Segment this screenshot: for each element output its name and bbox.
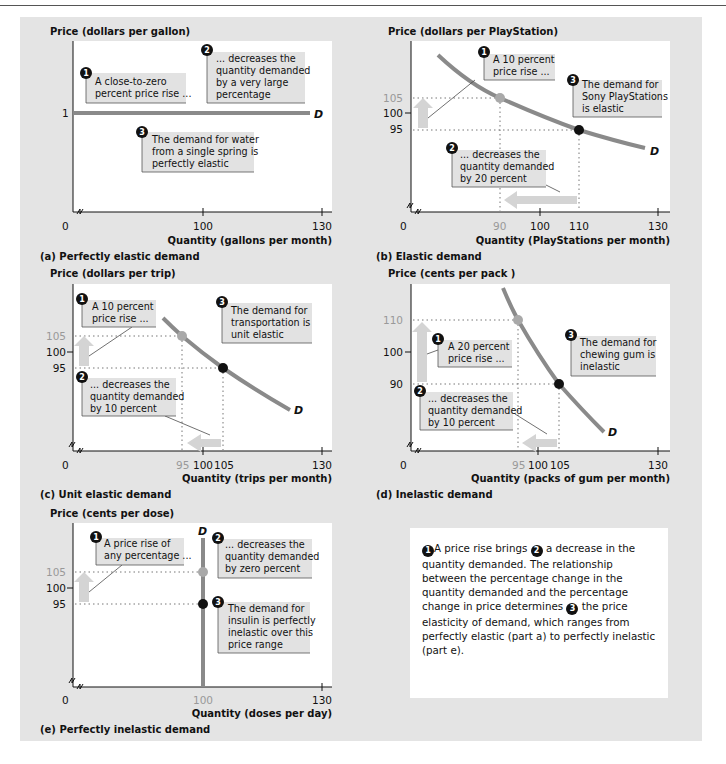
panel-caption: (d) Inelastic demand xyxy=(376,489,493,500)
svg-text:130: 130 xyxy=(312,694,332,706)
svg-text:percent price rise ...: percent price rise ... xyxy=(95,88,191,99)
svg-text:inelastic: inelastic xyxy=(580,361,620,372)
svg-text:quantity demanded: quantity demanded xyxy=(90,391,184,402)
svg-text:quantity demanded: quantity demanded xyxy=(216,65,310,76)
svg-text:100: 100 xyxy=(383,346,403,358)
svg-text:... decreases the: ... decreases the xyxy=(225,539,305,550)
x-axis-label: Quantity (PlayStations per month) xyxy=(476,235,670,246)
svg-text:The demand for: The demand for xyxy=(579,337,657,348)
svg-text:D: D xyxy=(608,426,617,439)
final-point xyxy=(218,363,228,373)
svg-text:90: 90 xyxy=(390,378,403,390)
final-point xyxy=(574,125,584,135)
svg-text:A 10 percent: A 10 percent xyxy=(493,54,555,65)
panel-caption: (c) Unit elastic demand xyxy=(40,489,171,500)
x-axis-label: Quantity (trips per month) xyxy=(182,473,332,484)
step-1-icon: 1 xyxy=(422,545,434,557)
svg-text:price rise ...: price rise ... xyxy=(493,66,550,77)
svg-text:2: 2 xyxy=(215,534,221,543)
svg-text:105: 105 xyxy=(550,459,570,471)
svg-text:D: D xyxy=(198,525,207,538)
svg-text:105: 105 xyxy=(46,330,66,342)
final-point xyxy=(198,599,208,609)
x-axis-label: Quantity (gallons per month) xyxy=(168,235,332,246)
x-tick: 0 xyxy=(62,220,69,232)
svg-text:unit elastic: unit elastic xyxy=(231,329,284,340)
svg-text:1: 1 xyxy=(83,69,89,78)
panel-caption: (e) Perfectly inelastic demand xyxy=(40,724,210,735)
svg-text:... decreases the: ... decreases the xyxy=(460,149,540,160)
svg-text:3: 3 xyxy=(219,298,225,307)
y-axis-label: Price (cents per pack ) xyxy=(388,268,515,279)
step-3-icon: 3 xyxy=(566,603,578,615)
svg-text:from a single spring is: from a single spring is xyxy=(152,146,258,157)
x-tick: 130 xyxy=(312,220,332,232)
panel-d: Price (cents per pack ) 0 95 100 105 130… xyxy=(376,268,670,500)
svg-text:inelastic over this: inelastic over this xyxy=(228,627,313,638)
y-axis-label: Price (dollars per trip) xyxy=(50,268,176,279)
svg-text:95: 95 xyxy=(176,459,189,471)
svg-text:100: 100 xyxy=(193,459,213,471)
svg-text:by a very large: by a very large xyxy=(216,77,288,88)
svg-text:The demand for water: The demand for water xyxy=(151,134,259,145)
x-axis-label: Quantity (packs of gum per month) xyxy=(471,473,670,484)
initial-point xyxy=(177,331,187,341)
svg-text:0: 0 xyxy=(400,220,407,232)
initial-point xyxy=(495,93,505,103)
svg-text:is elastic: is elastic xyxy=(582,103,624,114)
svg-text:The demand for: The demand for xyxy=(230,305,308,316)
step-2-icon: 2 xyxy=(531,545,543,557)
x-tick: 100 xyxy=(193,220,213,232)
svg-text:105: 105 xyxy=(383,92,403,104)
svg-text:0: 0 xyxy=(62,459,69,471)
svg-text:quantity demanded: quantity demanded xyxy=(428,405,522,416)
panel-caption: (a) Perfectly elastic demand xyxy=(40,251,200,262)
svg-text:130: 130 xyxy=(312,459,332,471)
svg-text:insulin is perfectly: insulin is perfectly xyxy=(228,615,316,626)
svg-text:2: 2 xyxy=(79,373,85,382)
svg-text:3: 3 xyxy=(568,331,574,340)
svg-text:price range: price range xyxy=(228,639,283,650)
svg-text:Sony PlayStations: Sony PlayStations xyxy=(582,91,668,102)
svg-text:3: 3 xyxy=(139,128,145,137)
svg-text:100: 100 xyxy=(193,694,213,706)
svg-text:price rise ...: price rise ... xyxy=(92,313,149,324)
svg-text:3: 3 xyxy=(570,76,576,85)
svg-text:transportation is: transportation is xyxy=(231,317,310,328)
panel-b: Price (dollars per PlayStation) 0 90 100… xyxy=(376,26,670,262)
y-tick: 1 xyxy=(62,107,69,119)
svg-text:105: 105 xyxy=(214,459,234,471)
svg-text:chewing gum is: chewing gum is xyxy=(580,349,655,360)
svg-text:1: 1 xyxy=(435,335,441,344)
panel-e: Price (cents per dose) 0 100 130 Quantit… xyxy=(40,508,332,735)
svg-text:1: 1 xyxy=(481,48,487,57)
svg-text:100: 100 xyxy=(383,107,403,119)
svg-text:95: 95 xyxy=(53,598,66,610)
svg-text:... decreases the: ... decreases the xyxy=(216,53,296,64)
svg-text:... decreases the: ... decreases the xyxy=(90,379,170,390)
initial-point xyxy=(198,567,208,577)
svg-text:100: 100 xyxy=(528,459,548,471)
svg-text:price rise ...: price rise ... xyxy=(448,353,505,364)
svg-text:100: 100 xyxy=(46,346,66,358)
svg-text:D: D xyxy=(294,404,303,417)
svg-text:A 20 percent: A 20 percent xyxy=(448,341,510,352)
svg-text:A price rise of: A price rise of xyxy=(104,538,171,549)
svg-text:quantity demanded: quantity demanded xyxy=(460,161,554,172)
svg-text:95: 95 xyxy=(53,362,66,374)
svg-text:100: 100 xyxy=(530,220,550,232)
summary-box: 1A price rise brings 2 a decrease in the… xyxy=(410,528,668,698)
svg-text:1: 1 xyxy=(93,533,99,542)
svg-text:110: 110 xyxy=(383,314,403,326)
svg-text:110: 110 xyxy=(569,220,589,232)
svg-text:1: 1 xyxy=(79,295,85,304)
svg-text:3: 3 xyxy=(215,598,221,607)
x-axis-label: Quantity (doses per day) xyxy=(192,708,332,719)
svg-text:95: 95 xyxy=(512,459,525,471)
svg-text:2: 2 xyxy=(449,144,455,153)
initial-point xyxy=(513,315,523,325)
svg-text:any percentage ...: any percentage ... xyxy=(104,550,192,561)
y-axis-label: Price (dollars per gallon) xyxy=(50,26,190,37)
svg-text:A 10 percent: A 10 percent xyxy=(92,301,154,312)
svg-text:D: D xyxy=(650,145,659,158)
